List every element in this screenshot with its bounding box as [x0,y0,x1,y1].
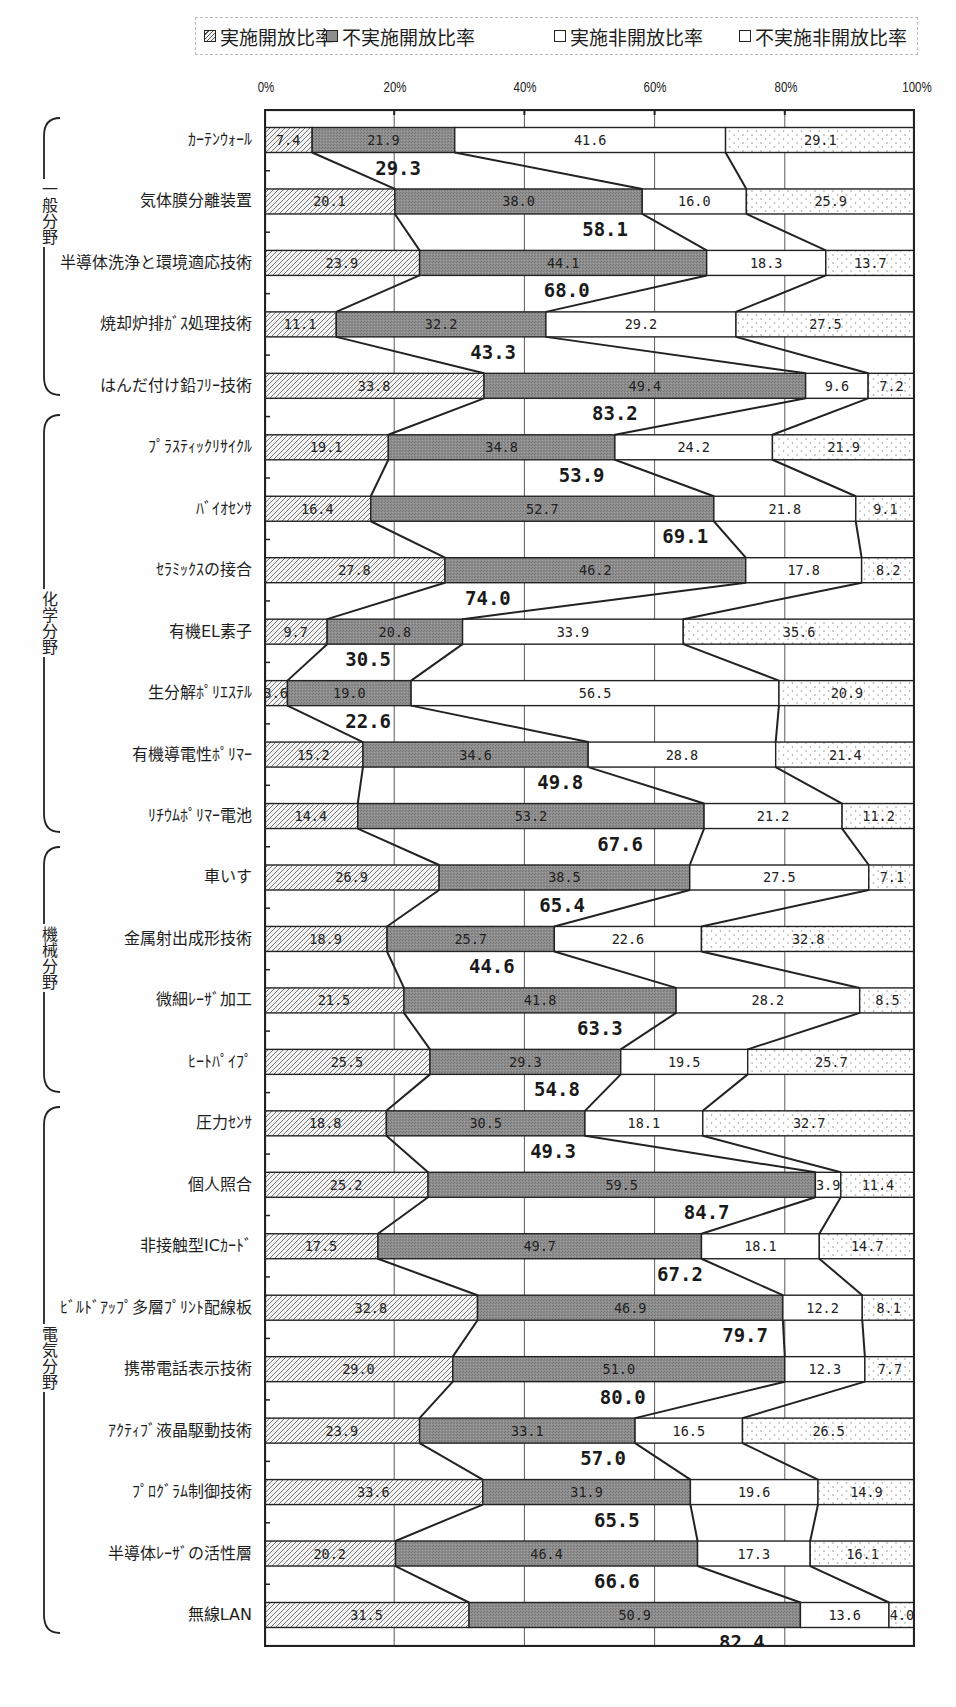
segment-value: 27.5 [763,869,796,885]
segment-value: 11.4 [862,1177,895,1193]
segment-value: 12.3 [809,1361,842,1377]
category-label: 車いす [204,867,252,887]
segment-value: 14.4 [295,808,328,824]
x-tick-label: 40% [500,78,549,96]
category-label: 有機導電性ﾎﾟﾘﾏｰ [132,745,252,765]
segment-value: 18.8 [309,1115,342,1131]
segment-value: 21.9 [827,439,860,455]
legend-item-not-implemented-open: 不実施開放比率 [326,18,475,54]
segment-value: 46.2 [579,562,612,578]
bar-row [264,1541,915,1566]
bar-row [264,988,915,1013]
segment-value: 46.4 [530,1546,563,1562]
segment-value: 8.2 [876,562,900,578]
segment-value: 32.2 [425,316,458,332]
segment-value: 29.3 [509,1054,542,1070]
segment-value: 29.1 [804,132,837,148]
segment-value: 9.6 [825,378,849,394]
bar-row [264,742,915,767]
segment-value: 32.8 [355,1300,388,1316]
open-ratio-total: 29.3 [375,157,421,179]
segment-value: 16.4 [301,501,334,517]
segment-value: 17.5 [305,1238,338,1254]
segment-value: 17.3 [738,1546,771,1562]
segment-value: 26.5 [812,1423,845,1439]
category-label: 携帯電話表示技術 [124,1359,252,1379]
category-label: ﾋｰﾄﾊﾟｲﾌﾟ [188,1052,252,1072]
segment-value: 49.4 [629,378,662,394]
bar-row [264,804,915,829]
segment-value: 33.8 [358,378,391,394]
segment-value: 11.2 [862,808,895,824]
open-ratio-total: 67.6 [597,833,643,855]
open-ratio-total: 53.9 [559,464,605,486]
group-label: 電気分野 [38,1324,56,1392]
segment-value: 25.5 [331,1054,364,1070]
segment-value: 49.7 [523,1238,556,1254]
category-label: ｾﾗﾐｯｸｽの接合 [156,560,252,580]
legend-item-implemented-open: 実施開放比率 [204,18,334,54]
segment-value: 26.9 [335,869,368,885]
x-tick-label: 60% [630,78,679,96]
segment-value: 16.5 [673,1423,706,1439]
segment-value: 12.2 [806,1300,839,1316]
segment-value: 41.8 [524,992,557,1008]
segment-value: 11.1 [284,316,317,332]
segment-value: 19.1 [310,439,343,455]
bar-row [264,496,915,521]
open-ratio-total: 44.6 [469,955,515,977]
segment-value: 7.7 [878,1361,902,1377]
segment-value: 29.2 [625,316,658,332]
category-label: 微細ﾚｰｻﾞ加工 [156,990,252,1010]
legend-label: 実施非開放比率 [570,23,703,50]
segment-value: 14.7 [851,1238,884,1254]
segment-value: 18.3 [750,255,783,271]
segment-value: 38.5 [548,869,581,885]
x-tick-label: 100% [892,78,941,96]
category-label: ﾌﾟﾛｸﾞﾗﾑ制御技術 [132,1482,252,1502]
category-label: 半導体ﾚｰｻﾞの活性層 [108,1544,252,1564]
segment-value: 24.2 [677,439,710,455]
open-ratio-total: 66.6 [594,1570,640,1592]
open-ratio-total: 63.3 [577,1017,623,1039]
segment-value: 50.9 [618,1607,651,1623]
open-ratio-total: 30.5 [345,648,391,670]
legend-item-not-implemented-closed: 不実施非開放比率 [739,18,907,54]
bar-row [264,435,915,460]
bar-row [264,250,915,275]
segment-value: 18.1 [744,1238,777,1254]
dark-swatch-icon [326,30,338,42]
segment-value: 28.8 [666,747,699,763]
category-label: ﾌﾟﾗｽﾃｨｯｸﾘｻｲｸﾙ [148,437,252,457]
segment-value: 9.1 [873,501,897,517]
segment-value: 53.2 [515,808,548,824]
segment-value: 23.9 [326,255,359,271]
segment-value: 33.1 [511,1423,544,1439]
x-tick-label: 20% [370,78,419,96]
segment-value: 20.9 [831,685,864,701]
open-ratio-total: 67.2 [657,1263,703,1285]
plot-area: 7.421.941.629.120.138.016.025.923.944.11… [264,109,915,1647]
category-label: ﾘﾁｳﾑﾎﾟﾘﾏｰ電池 [148,806,252,826]
segment-value: 23.9 [326,1423,359,1439]
segment-value: 25.2 [330,1177,363,1193]
open-ratio-total: 82.4 [719,1631,765,1647]
group-bracket [44,118,60,395]
segment-value: 32.8 [792,931,825,947]
open-ratio-total: 22.6 [345,710,391,732]
segment-value: 7.2 [879,378,903,394]
segment-value: 38.0 [502,193,535,209]
segment-value: 21.9 [367,132,400,148]
open-ratio-total: 69.1 [662,525,708,547]
category-label: 有機EL素子 [169,622,252,642]
segment-value: 32.7 [793,1115,826,1131]
segment-value: 4.0 [890,1607,914,1623]
open-ratio-total: 57.0 [580,1447,626,1469]
segment-value: 16.1 [846,1546,879,1562]
segment-value: 21.2 [757,808,790,824]
segment-value: 16.0 [678,193,711,209]
segment-value: 3.9 [816,1177,840,1193]
bar-row [264,1234,915,1259]
x-tick-label: 0% [241,78,290,96]
open-ratio-total: 84.7 [684,1201,730,1223]
